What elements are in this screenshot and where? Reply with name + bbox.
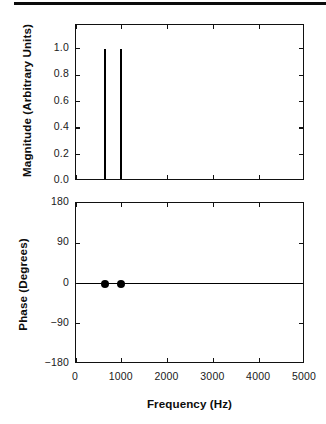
frequency-xtick-label: 5000 [274,370,326,382]
phase-xtick [259,358,260,362]
page-edge-bar [14,2,326,5]
magnitude-ytick [299,101,303,102]
magnitude-ytick-label: 1.0 [35,41,69,53]
magnitude-plot-area [76,25,303,179]
magnitude-ytick [299,127,303,128]
magnitude-xtick [76,175,77,179]
magnitude-spike [104,49,106,179]
magnitude-xtick [259,175,260,179]
phase-data-point [101,280,109,288]
magnitude-ytick [76,127,80,128]
frequency-axis-title: Frequency (Hz) [75,397,304,410]
phase-xtick [76,358,77,362]
phase-ytick [76,323,80,324]
magnitude-xtick [167,25,168,29]
phase-xtick [167,358,168,362]
magnitude-xtick [213,25,214,29]
phase-ytick-label: 180 [35,195,69,207]
phase-zero-line [77,283,302,285]
phase-axis-title: Phase (Degrees) [16,225,29,345]
magnitude-ytick-label: 0.2 [35,147,69,159]
phase-ytick-label: 0 [35,276,69,288]
phase-xtick [213,203,214,207]
phase-ytick-label: −180 [35,356,69,368]
magnitude-xtick [76,25,77,29]
magnitude-ytick-label: 0.0 [35,173,69,185]
magnitude-ytick [299,75,303,76]
phase-xtick [121,203,122,207]
phase-xtick [213,358,214,362]
magnitude-axis-title: Magnitude (Arbitrary Units) [20,3,33,199]
phase-ytick [299,243,303,244]
phase-plot-panel [75,202,304,363]
magnitude-spike [120,49,122,179]
phase-xtick [167,203,168,207]
phase-ytick-label: 90 [35,235,69,247]
magnitude-ytick [299,48,303,49]
phase-data-point [117,280,125,288]
magnitude-ytick-label: 0.4 [35,120,69,132]
phase-ytick-label: −90 [35,316,69,328]
figure-canvas: Magnitude (Arbitrary Units) Phase (Degre… [0,0,326,424]
magnitude-ytick-label: 0.6 [35,94,69,106]
magnitude-xtick [167,175,168,179]
phase-xtick [121,358,122,362]
magnitude-ytick [299,154,303,155]
magnitude-ytick [76,154,80,155]
magnitude-ytick-label: 0.8 [35,67,69,79]
magnitude-xtick [259,25,260,29]
phase-ytick [76,243,80,244]
magnitude-plot-panel [75,24,304,180]
phase-plot-area [76,203,303,362]
magnitude-ytick [76,48,80,49]
magnitude-ytick [76,101,80,102]
phase-ytick [299,323,303,324]
magnitude-xtick [121,25,122,29]
magnitude-ytick [76,75,80,76]
magnitude-xtick [213,175,214,179]
phase-xtick [76,203,77,207]
phase-xtick [259,203,260,207]
